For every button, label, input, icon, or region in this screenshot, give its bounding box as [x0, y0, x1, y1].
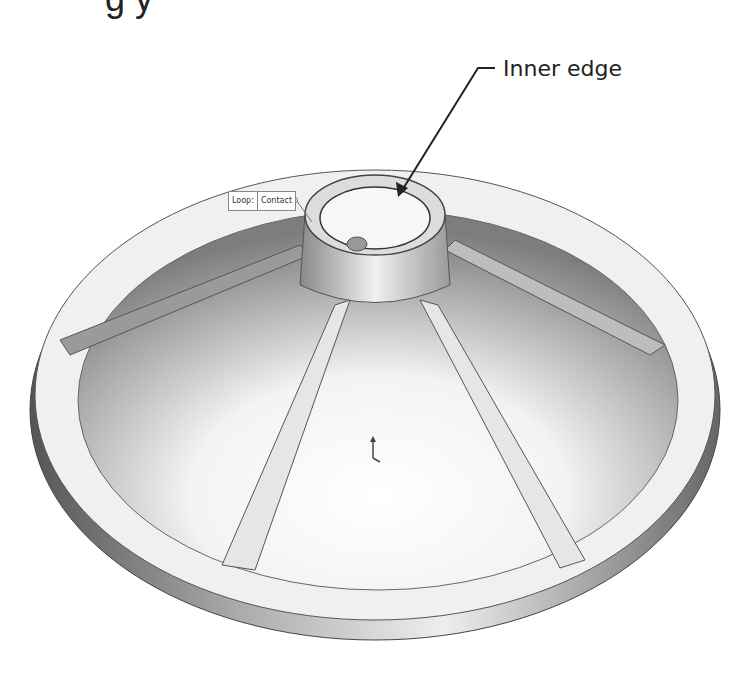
- selection-tag-value: Contact: [258, 192, 295, 210]
- selection-tag[interactable]: Loop: Contact: [228, 191, 296, 211]
- inner-edge-label: Inner edge: [503, 56, 622, 81]
- selection-tag-key: Loop:: [229, 192, 258, 210]
- part-model-drawing: [0, 0, 753, 694]
